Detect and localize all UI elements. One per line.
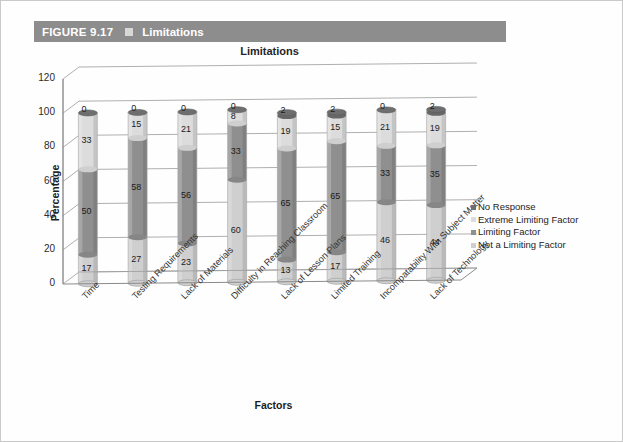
bar-value-label: 46 bbox=[380, 235, 390, 245]
bar-value-label: 27 bbox=[131, 254, 141, 264]
x-tick-label: Difficulty in Reaching Classroom bbox=[229, 201, 329, 301]
legend-swatch-icon bbox=[471, 205, 476, 210]
x-tick-label: Time bbox=[80, 280, 101, 301]
bar-value-label: 8 bbox=[231, 111, 236, 121]
legend: No ResponseExtreme Limiting FactorLimiti… bbox=[471, 201, 578, 251]
y-tick-label: 120 bbox=[29, 72, 55, 83]
figure-title: Limitations bbox=[142, 26, 203, 38]
y-tick-label: 0 bbox=[29, 277, 55, 288]
bar-value-label: 15 bbox=[131, 119, 141, 129]
bar-value-label: 65 bbox=[330, 191, 340, 201]
legend-label: Limiting Factor bbox=[478, 226, 540, 239]
bar-value-label: 56 bbox=[181, 190, 191, 200]
bar-value-label: 15 bbox=[330, 122, 340, 132]
bar-value-label: 0 bbox=[131, 103, 136, 113]
bar-value-label: 0 bbox=[231, 101, 236, 111]
bar-value-label: 17 bbox=[81, 263, 91, 273]
y-axis-title: Percentage bbox=[49, 133, 61, 253]
legend-item[interactable]: Not a Limiting Factor bbox=[471, 239, 578, 252]
bar-value-label: 60 bbox=[231, 225, 241, 235]
x-axis-title-text: Factors bbox=[255, 399, 293, 411]
bar-value-label: 21 bbox=[380, 122, 390, 132]
legend-swatch-icon bbox=[471, 217, 476, 222]
figure-number: FIGURE 9.17 bbox=[42, 26, 113, 38]
square-icon bbox=[125, 28, 133, 36]
legend-swatch-icon bbox=[471, 243, 476, 248]
bar-value-label: 65 bbox=[280, 198, 290, 208]
x-axis-title: Factors bbox=[1, 399, 622, 411]
figure-page: FIGURE 9.17 Limitations Limitations 0204… bbox=[0, 0, 623, 442]
bar-value-label: 13 bbox=[280, 265, 290, 275]
bar-value-label: 50 bbox=[81, 206, 91, 216]
legend-item[interactable]: No Response bbox=[471, 201, 578, 214]
bar-value-label: 33 bbox=[231, 146, 241, 156]
bar-value-label: 33 bbox=[81, 135, 91, 145]
legend-label: Extreme Limiting Factor bbox=[478, 214, 578, 227]
bar-value-label: 0 bbox=[81, 104, 86, 114]
bar-value-label: 35 bbox=[430, 169, 440, 179]
legend-label: Not a Limiting Factor bbox=[478, 239, 566, 252]
bar-value-label: 2 bbox=[330, 104, 335, 114]
bar-value-label: 44 bbox=[430, 237, 440, 247]
bar-value-label: 0 bbox=[380, 101, 385, 111]
x-tick-label: Lack of Materials bbox=[179, 245, 235, 301]
gridlines bbox=[63, 63, 477, 284]
bar-value-label: 2 bbox=[280, 105, 285, 115]
bar-value-label: 23 bbox=[181, 257, 191, 267]
bar-value-label: 0 bbox=[181, 103, 186, 113]
bar-value-label: 17 bbox=[330, 261, 340, 271]
x-tick-label: Limited Training bbox=[329, 248, 382, 301]
figure-header-bar: FIGURE 9.17 Limitations bbox=[34, 21, 506, 42]
bar-value-label: 33 bbox=[380, 168, 390, 178]
chart-title: Limitations bbox=[1, 45, 622, 57]
bar-value-label: 2 bbox=[430, 101, 435, 111]
bar-value-label: 58 bbox=[131, 182, 141, 192]
legend-swatch-icon bbox=[471, 230, 476, 235]
bar-value-label: 19 bbox=[430, 123, 440, 133]
legend-item[interactable]: Limiting Factor bbox=[471, 226, 578, 239]
y-tick-label: 100 bbox=[29, 106, 55, 117]
bar-value-label: 19 bbox=[280, 126, 290, 136]
legend-item[interactable]: Extreme Limiting Factor bbox=[471, 214, 578, 227]
legend-label: No Response bbox=[478, 201, 536, 214]
chart-title-text: Limitations bbox=[240, 45, 299, 57]
bar-value-label: 21 bbox=[181, 124, 191, 134]
